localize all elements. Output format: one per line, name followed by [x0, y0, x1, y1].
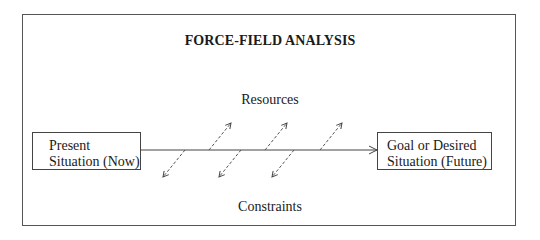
resource-arrow — [320, 123, 342, 150]
resource-arrow — [209, 123, 231, 150]
present-box-line2: Situation (Now) — [49, 154, 140, 170]
constraint-arrow — [219, 150, 241, 177]
goal-box-line1: Goal or Desired — [387, 138, 491, 154]
constraint-arrow — [163, 150, 185, 177]
resource-arrows — [209, 123, 342, 150]
present-situation-box: Present Situation (Now) — [32, 132, 141, 170]
resource-arrow — [265, 123, 287, 150]
goal-situation-box: Goal or Desired Situation (Future) — [377, 132, 492, 170]
goal-box-line2: Situation (Future) — [387, 154, 491, 170]
constraint-arrow — [272, 150, 294, 177]
arrows-layer — [0, 0, 540, 240]
constraint-arrows — [163, 150, 294, 177]
present-box-line1: Present — [49, 138, 140, 154]
